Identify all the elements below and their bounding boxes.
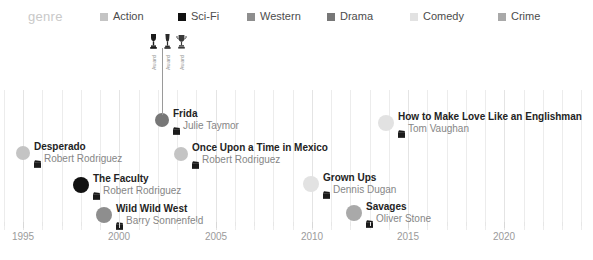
axis-tick <box>216 222 217 228</box>
movie-director-row: Robert Rodriguez <box>192 154 328 166</box>
movie-dot[interactable] <box>96 207 112 223</box>
legend-item-label: Drama <box>340 11 373 22</box>
movie-title: Savages <box>366 201 431 213</box>
axis-tick <box>312 222 313 228</box>
axis-tick <box>119 222 120 228</box>
legend-item-label: Crime <box>511 11 540 22</box>
axis-minor-tick <box>389 222 390 226</box>
clapperboard-icon <box>173 121 180 129</box>
axis-tick-label: 2000 <box>108 231 130 242</box>
gridline <box>4 90 5 230</box>
movie-title: Once Upon a Time in Mexico <box>192 142 328 154</box>
axis-minor-tick <box>158 222 159 226</box>
movie-dot[interactable] <box>16 146 30 160</box>
award-icons: AwardAwardAward <box>148 33 187 70</box>
axis-tick <box>23 222 24 228</box>
clapperboard-icon <box>398 124 405 132</box>
axis-tick <box>504 222 505 228</box>
legend-item-action[interactable]: Action <box>100 11 144 22</box>
genre-legend: genre ActionSci-FiWesternDramaComedyCrim… <box>0 0 593 32</box>
axis-tick-label: 2020 <box>493 231 515 242</box>
axis-minor-tick <box>466 222 467 226</box>
movie-title: Wild Wild West <box>116 203 203 215</box>
legend-item-sci-fi[interactable]: Sci-Fi <box>178 11 219 22</box>
legend-swatch-icon <box>410 13 418 21</box>
legend-swatch-icon <box>178 13 186 21</box>
movie-director-row: Robert Rodriguez <box>34 153 122 165</box>
movie-label: Once Upon a Time in MexicoRobert Rodrigu… <box>192 142 328 165</box>
trophy-icon <box>148 33 159 53</box>
award-column[interactable]: Award <box>148 33 159 70</box>
axis-tick-label: 2010 <box>301 231 323 242</box>
clapperboard-icon <box>34 154 41 162</box>
legend-item-drama[interactable]: Drama <box>327 11 373 22</box>
clapperboard-icon <box>93 186 100 194</box>
axis-minor-tick <box>81 222 82 226</box>
movie-mark[interactable]: FridaJulie Taymor <box>155 108 239 131</box>
movie-dot[interactable] <box>346 205 362 221</box>
movie-mark[interactable]: Grown UpsDennis Dugan <box>303 172 396 195</box>
axis-minor-tick <box>581 222 582 226</box>
movie-director: Julie Taymor <box>183 120 239 132</box>
axis-minor-tick <box>447 222 448 226</box>
movie-director-row: Robert Rodriguez <box>93 185 181 197</box>
movie-dot[interactable] <box>378 115 394 131</box>
movie-director: Robert Rodriguez <box>44 153 122 165</box>
movie-title: Grown Ups <box>323 172 396 184</box>
movie-dot[interactable] <box>174 147 188 161</box>
axis-tick-label: 2015 <box>397 231 419 242</box>
legend-item-western[interactable]: Western <box>247 11 301 22</box>
movie-dot[interactable] <box>303 176 319 192</box>
movie-label: Grown UpsDennis Dugan <box>323 172 396 195</box>
axis-tick-label: 1995 <box>12 231 34 242</box>
axis-minor-tick <box>100 222 101 226</box>
movie-title: The Faculty <box>93 173 181 185</box>
axis-minor-tick <box>543 222 544 226</box>
axis-minor-tick <box>562 222 563 226</box>
award-caption: Award <box>151 55 157 70</box>
movie-title: Desperado <box>34 141 122 153</box>
movie-label: FridaJulie Taymor <box>173 108 239 131</box>
movie-director: Tom Vaughan <box>408 123 469 135</box>
clapperboard-icon <box>192 155 199 163</box>
legend-title: genre <box>28 9 63 24</box>
movie-mark[interactable]: DesperadoRobert Rodriguez <box>16 141 122 164</box>
legend-swatch-icon <box>247 13 255 21</box>
award-column[interactable]: Award <box>162 33 173 70</box>
axis-minor-tick <box>293 222 294 226</box>
movie-mark[interactable]: The FacultyRobert Rodriguez <box>73 173 181 196</box>
legend-swatch-icon <box>498 13 506 21</box>
legend-item-label: Western <box>260 11 301 22</box>
axis-minor-tick <box>485 222 486 226</box>
legend-item-label: Comedy <box>423 11 464 22</box>
axis-minor-tick <box>196 222 197 226</box>
axis-minor-tick <box>524 222 525 226</box>
legend-item-comedy[interactable]: Comedy <box>410 11 464 22</box>
legend-swatch-icon <box>100 13 108 21</box>
legend-item-crime[interactable]: Crime <box>498 11 540 22</box>
award-column[interactable]: Award <box>176 33 187 70</box>
movie-director: Robert Rodriguez <box>202 154 280 166</box>
axis-minor-tick <box>350 222 351 226</box>
movie-mark[interactable]: Once Upon a Time in MexicoRobert Rodrigu… <box>174 142 328 165</box>
movie-dot[interactable] <box>73 177 89 193</box>
clapperboard-icon <box>323 185 330 193</box>
axis-tick <box>408 222 409 228</box>
axis-minor-tick <box>273 222 274 226</box>
movie-label: SavagesOliver Stone <box>366 201 431 224</box>
movie-mark[interactable]: How to Make Love Like an EnglishmanTom V… <box>378 111 582 134</box>
movie-title: Frida <box>173 108 239 120</box>
movie-director: Robert Rodriguez <box>103 185 181 197</box>
legend-item-label: Action <box>113 11 144 22</box>
year-axis: 199520002005201020152020 <box>0 222 593 260</box>
legend-swatch-icon <box>327 13 335 21</box>
axis-minor-tick <box>42 222 43 226</box>
award-caption: Award <box>179 55 185 70</box>
movie-label: The FacultyRobert Rodriguez <box>93 173 181 196</box>
movie-mark[interactable]: SavagesOliver Stone <box>346 201 431 224</box>
axis-minor-tick <box>235 222 236 226</box>
axis-minor-tick <box>177 222 178 226</box>
axis-minor-tick <box>4 222 5 226</box>
movie-director-row: Tom Vaughan <box>398 123 582 135</box>
gridline <box>331 90 332 230</box>
